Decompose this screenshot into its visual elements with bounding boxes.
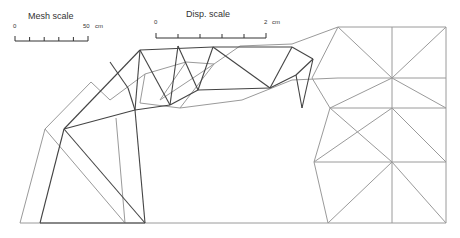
mesh-edge bbox=[178, 46, 198, 90]
mesh-edge bbox=[328, 162, 392, 223]
mesh-edge bbox=[214, 46, 240, 64]
mesh-edge bbox=[338, 27, 392, 78]
mesh-edge bbox=[314, 108, 330, 162]
mesh-edge bbox=[135, 50, 140, 110]
mesh-edge bbox=[240, 44, 292, 46]
deformed-mesh bbox=[40, 46, 313, 223]
mesh-edge bbox=[180, 100, 242, 108]
mesh-edge bbox=[392, 162, 446, 223]
mesh-edge bbox=[128, 88, 135, 110]
mesh-edge bbox=[314, 108, 392, 162]
fem-mesh-diagram bbox=[0, 0, 460, 238]
mesh-edge bbox=[140, 47, 213, 50]
mesh-edge bbox=[116, 118, 125, 223]
mesh-edge bbox=[20, 129, 45, 223]
mesh-edge bbox=[64, 110, 135, 129]
mesh-edge bbox=[292, 47, 313, 59]
mesh-edge bbox=[45, 82, 91, 129]
mesh-edge bbox=[135, 110, 145, 223]
mesh-edge bbox=[213, 47, 270, 88]
mesh-edge bbox=[160, 64, 214, 100]
mesh-edge bbox=[312, 78, 330, 108]
mesh-edge bbox=[392, 78, 446, 108]
mesh-scale-bar bbox=[15, 36, 88, 41]
undeformed-mesh bbox=[20, 27, 446, 223]
mesh-edge bbox=[330, 108, 392, 162]
mesh-edge bbox=[302, 59, 313, 108]
disp-scale-bar bbox=[156, 33, 266, 38]
mesh-edge bbox=[140, 74, 145, 103]
mesh-edge bbox=[40, 129, 64, 223]
mesh-edge bbox=[242, 80, 292, 100]
mesh-edge bbox=[392, 27, 446, 78]
mesh-edge bbox=[180, 64, 214, 108]
mesh-edge bbox=[186, 62, 214, 64]
mesh-edge bbox=[292, 78, 338, 80]
mesh-edge bbox=[314, 162, 328, 223]
mesh-edge bbox=[45, 129, 125, 223]
mesh-edge bbox=[198, 88, 270, 90]
mesh-edge bbox=[145, 62, 186, 74]
mesh-edge bbox=[140, 103, 180, 108]
mesh-edge bbox=[392, 108, 446, 162]
mesh-edge bbox=[64, 129, 145, 223]
mesh-edge bbox=[135, 105, 170, 110]
mesh-edge bbox=[330, 78, 392, 108]
